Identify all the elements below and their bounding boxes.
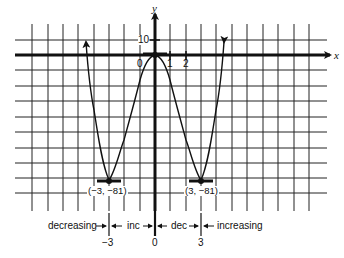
- origin-point: [152, 52, 158, 58]
- right-min-label: (3, −81): [184, 186, 219, 196]
- y-axis-label: y: [152, 3, 157, 13]
- x-tick-2-label: 2: [183, 59, 189, 69]
- x-axis-label: x: [334, 50, 339, 60]
- grid: [15, 24, 327, 211]
- right-min-point: [198, 178, 204, 184]
- y-tick-10-label: 10: [138, 35, 149, 45]
- interval-decreasing: decreasing: [48, 221, 97, 231]
- x-tick-1-label: 1: [167, 59, 173, 69]
- left-min-label: (−3, −81): [87, 186, 128, 196]
- interval-dec: dec: [171, 221, 187, 231]
- origin-label: 0: [137, 59, 143, 69]
- number-line-label-0: 0: [152, 238, 158, 248]
- number-line-label-neg3: −3: [102, 238, 113, 248]
- interval-inc: inc: [127, 221, 140, 231]
- interval-increasing: increasing: [217, 221, 263, 231]
- left-min-point: [106, 178, 112, 184]
- axes: [15, 14, 330, 211]
- number-line-label-3: 3: [198, 238, 204, 248]
- number-line: [96, 211, 214, 236]
